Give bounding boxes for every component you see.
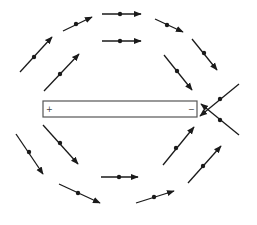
compass-needle-lower-right-inner	[163, 127, 194, 165]
pivot-dot-icon	[175, 69, 179, 73]
compass-needle-right-cross-lower	[201, 104, 239, 135]
compass-needle-right-outer	[192, 39, 217, 70]
arrow-icon	[20, 37, 52, 72]
pivot-dot-icon	[218, 118, 222, 122]
compass-needle-right-inner	[164, 55, 192, 90]
bar-magnet-body	[43, 101, 197, 117]
pivot-dot-icon	[218, 97, 222, 101]
compass-needle-right-cross-upper	[200, 84, 239, 116]
pivot-dot-icon	[152, 195, 156, 199]
pivot-dot-icon	[201, 164, 205, 168]
compass-needle-upper-left-outer	[63, 17, 92, 31]
negative-pole-label: −	[188, 105, 195, 114]
pivot-dot-icon	[118, 12, 122, 16]
pivot-dot-icon	[76, 191, 80, 195]
positive-pole-label: +	[46, 105, 53, 114]
pivot-dot-icon	[58, 72, 62, 76]
pivot-dot-icon	[32, 55, 36, 59]
pivot-dot-icon	[118, 39, 122, 43]
compass-needle-left-outer	[20, 37, 52, 72]
compass-needle-left-inner	[44, 54, 79, 91]
pivot-dot-icon	[174, 146, 178, 150]
magnet-field-diagram: + −	[0, 0, 257, 225]
pivot-dot-icon	[202, 51, 206, 55]
arrow-icon	[163, 127, 194, 165]
pivot-dot-icon	[27, 150, 31, 154]
pivot-dot-icon	[74, 22, 78, 26]
pivot-dot-icon	[117, 175, 121, 179]
compass-needle-bottom-right	[136, 191, 174, 203]
compass-needle-bottom-center	[101, 175, 138, 179]
compass-needle-upper-right-outer	[155, 19, 183, 32]
compass-needle-lower-left-outer	[16, 134, 43, 174]
bar-magnet: + −	[43, 101, 197, 117]
compass-needle-top-outer	[102, 12, 141, 16]
pivot-dot-icon	[58, 141, 62, 145]
compass-needle-bottom-left	[59, 184, 100, 203]
compass-needle-lower-left-inner	[43, 125, 78, 164]
compass-needle-top-inner	[102, 39, 141, 43]
pivot-dot-icon	[165, 23, 169, 27]
compass-needle-lower-right-outer	[188, 146, 221, 183]
